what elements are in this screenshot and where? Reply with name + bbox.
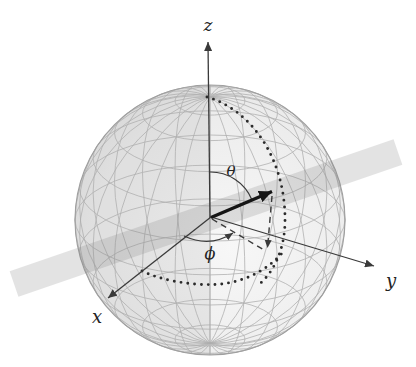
theta-angle-label: θ [226, 162, 235, 180]
bloch-sphere-figure: z y x θ ϕ [0, 0, 416, 367]
x-axis-label: x [92, 306, 102, 327]
phi-angle-label: ϕ [205, 244, 216, 263]
z-axis-label: z [203, 15, 214, 35]
y-axis-label: y [385, 270, 397, 291]
figure-canvas: z y x θ ϕ [0, 0, 416, 367]
